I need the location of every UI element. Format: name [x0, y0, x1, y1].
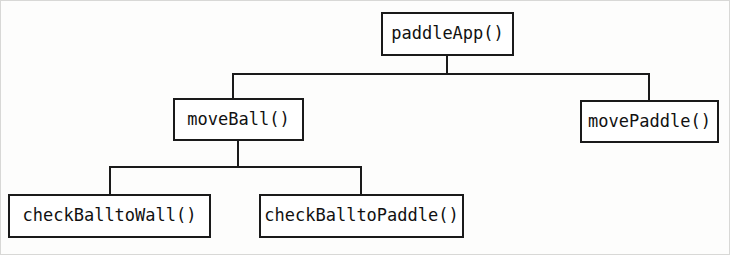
node-checkballtopaddle-label: checkBalltoPaddle(): [264, 207, 458, 225]
structure-chart-canvas: paddleApp() moveBall() movePaddle() chec…: [0, 0, 730, 255]
node-checkballtowall-label: checkBalltoWall(): [23, 207, 197, 225]
node-checkballtowall[interactable]: checkBalltoWall(): [8, 194, 211, 238]
connector-level2-bus: [109, 166, 362, 168]
connector-to-checkballtowall: [109, 166, 111, 195]
connector-to-moveball: [232, 73, 234, 99]
node-checkballtopaddle[interactable]: checkBalltoPaddle(): [259, 194, 464, 238]
connector-to-movepaddle: [648, 73, 650, 101]
scan-edge-left: [0, 0, 1, 255]
connector-to-checkballtopaddle: [360, 166, 362, 195]
connector-paddleapp-stem: [446, 54, 448, 75]
node-movepaddle-label: movePaddle(): [588, 113, 711, 131]
connector-level1-bus: [232, 73, 650, 75]
node-moveball[interactable]: moveBall(): [173, 98, 304, 141]
node-moveball-label: moveBall(): [187, 111, 289, 129]
node-paddleapp-label: paddleApp(): [391, 25, 504, 43]
scan-edge-top: [0, 0, 730, 1]
node-paddleapp[interactable]: paddleApp(): [381, 12, 514, 56]
node-movepaddle[interactable]: movePaddle(): [580, 100, 719, 143]
connector-moveball-stem: [237, 139, 239, 168]
